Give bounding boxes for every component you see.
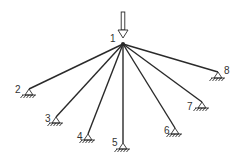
pin-support-icon xyxy=(194,102,210,111)
member-1-2 xyxy=(29,44,123,89)
pin-support-icon xyxy=(21,89,37,98)
node-label-2: 2 xyxy=(15,84,21,95)
node-label-5: 5 xyxy=(112,137,118,148)
truss-diagram: 23456781 xyxy=(0,0,239,164)
node-label-6: 6 xyxy=(164,125,170,136)
apex-node xyxy=(121,42,125,46)
pin-support-icon xyxy=(210,72,226,81)
load-arrow-icon xyxy=(118,12,128,38)
member-1-3 xyxy=(56,44,123,117)
members xyxy=(29,44,218,143)
node-label-3: 3 xyxy=(45,113,51,124)
node-label-4: 4 xyxy=(77,131,83,142)
node-label-8: 8 xyxy=(224,65,230,76)
member-1-7 xyxy=(123,44,202,102)
node-label-1: 1 xyxy=(110,33,116,44)
node-label-7: 7 xyxy=(187,101,193,112)
